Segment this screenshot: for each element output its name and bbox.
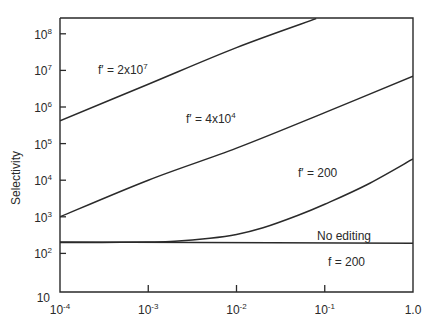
selectivity-chart: 10102103104105106107108 10-410-310-210-1… <box>0 0 436 330</box>
x-tick-label: 10-1 <box>315 302 336 317</box>
label-f-200: f′ = 200 <box>298 166 338 180</box>
label-f-4e4: f′ = 4x104 <box>186 111 236 126</box>
y-tick-label: 103 <box>34 210 52 225</box>
curve-labels: f′ = 2x107f′ = 4x104f′ = 200No editingf … <box>98 62 371 269</box>
y-tick-label: 104 <box>34 173 52 188</box>
x-tick-label: 10-4 <box>50 302 71 317</box>
x-tick-label: 10-2 <box>226 302 247 317</box>
label-f-2e7: f′ = 2x107 <box>98 62 148 77</box>
y-tick-label: 107 <box>34 63 52 78</box>
y-tick-label: 105 <box>34 137 52 152</box>
label-no-editing: No editing <box>317 229 371 243</box>
x-tick-label: 10-3 <box>138 302 159 317</box>
axes-box <box>60 18 413 292</box>
y-axis-ticks: 10102103104105106107108 <box>34 27 66 305</box>
y-tick-label: 10 <box>37 291 51 305</box>
label-f-equals-200: f = 200 <box>328 255 365 269</box>
y-tick-label: 106 <box>34 100 52 115</box>
y-axis-title: Selectivity <box>9 151 23 205</box>
series-line <box>60 76 413 217</box>
x-axis-ticks: 10-410-310-210-11.0 <box>50 285 422 317</box>
y-tick-label: 102 <box>34 246 52 261</box>
plot-frame <box>60 18 413 292</box>
y-tick-label: 108 <box>34 27 52 42</box>
x-tick-label: 1.0 <box>405 303 422 317</box>
data-series <box>60 19 413 244</box>
